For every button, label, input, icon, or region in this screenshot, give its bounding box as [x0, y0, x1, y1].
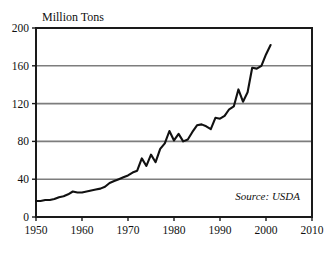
x-tick-label-1960: 1960: [71, 224, 94, 236]
chart-container: Million Tons 04080120160200 195019601970…: [0, 0, 336, 255]
source-note: Source: USDA: [235, 190, 300, 202]
x-tick-label-2010: 2010: [301, 224, 324, 236]
y-tick-label-0: 0: [23, 211, 29, 223]
x-tick-label-1980: 1980: [163, 224, 186, 236]
y-tick-label-160: 160: [12, 60, 30, 72]
x-tick-label-2000: 2000: [255, 224, 278, 236]
x-tick-label-1970: 1970: [117, 224, 140, 236]
y-tick-label-120: 120: [12, 98, 30, 110]
x-tick-label-1950: 1950: [25, 224, 48, 236]
y-tick-label-40: 40: [18, 173, 30, 185]
y-tick-label-200: 200: [12, 22, 30, 34]
line-chart: Million Tons 04080120160200 195019601970…: [0, 0, 336, 255]
y-tick-label-80: 80: [18, 135, 30, 147]
x-tick-label-1990: 1990: [209, 224, 232, 236]
chart-title: Million Tons: [42, 10, 104, 24]
